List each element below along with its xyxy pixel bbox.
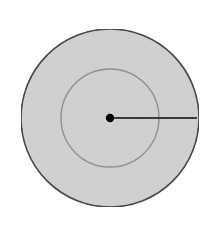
concentric-circles-diagram <box>0 0 211 229</box>
center-point <box>106 114 114 122</box>
